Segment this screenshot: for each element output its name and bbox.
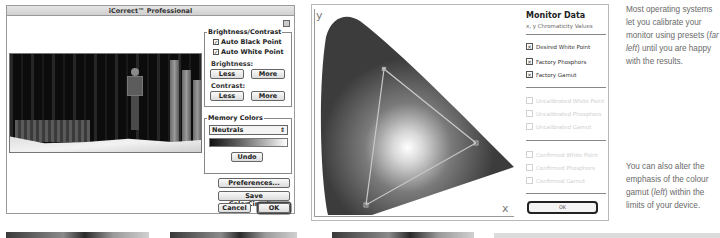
x-axis-label: x [502,202,509,215]
checkbox-unchecked-icon [526,97,533,104]
group-title: Brightness/Contrast [207,28,282,37]
divider [526,34,606,35]
checkbox-checked-icon: ✓ [213,49,219,55]
gray-panel [494,233,720,238]
checkbox-label: Auto White Point [221,48,284,56]
undo-button[interactable]: Undo [231,152,263,162]
fence [15,120,90,142]
memory-colors-select[interactable]: Neutrals ⇕ [209,125,288,135]
brightness-less-button[interactable]: Less [210,69,244,79]
chromaticity-diagram: y x [314,7,514,217]
checkbox-unchecked-icon [526,123,533,130]
chromaticity-plot [314,7,514,217]
auto-black-point-checkbox[interactable]: ✓ Auto Black Point [213,38,282,46]
thumbnail-image [6,232,149,238]
panel-title: Monitor Data [526,11,585,20]
save-colorcircuit-button[interactable]: Save ColorCircuit... [218,191,290,201]
caption-text: ) until you are happy with the results. [626,44,711,66]
brightness-label: Brightness: [211,60,253,68]
preferences-button[interactable]: Preferences... [218,178,290,188]
checkbox-unchecked-icon [526,110,533,117]
checkbox-label: Confirmed White Point [536,152,598,158]
checkbox-label: Auto Black Point [221,38,282,46]
monitor-data-panel: Monitor Data x, y Chromaticity Values × … [514,5,608,220]
caption-text: Most operating systems let you calibrate… [626,5,712,40]
divider [526,87,606,88]
checkbox-label: Uncalibrated White Point [536,98,604,104]
y-axis-label: y [316,9,323,22]
close-box-icon[interactable] [283,20,290,27]
monitor-ok-button[interactable]: OK [527,201,598,214]
checkbox-label: Uncalibrated Gamut [536,124,592,130]
brightness-more-button[interactable]: More [251,69,285,79]
factory-gamut-checkbox[interactable]: × Factory Gamut [526,71,576,78]
pillar [182,70,191,150]
checkbox-label: Confirmed Gamut [536,178,585,184]
checkbox-label: Factory Gamut [536,72,576,78]
caption-bottom: You can also alter the emphasis of the c… [626,160,720,212]
auto-white-point-checkbox[interactable]: ✓ Auto White Point [213,48,284,56]
page: iCorrect™ Professional Brightness/Contra… [0,0,720,238]
checkbox-label: Desired White Point [536,44,590,50]
divider [526,193,606,194]
factory-phosphors-checkbox[interactable]: × Factory Phosphors [526,58,586,65]
updown-arrows-icon: ⇕ [280,126,285,134]
thumbnail-image [170,232,297,238]
dialog-title: iCorrect™ Professional [7,6,294,16]
checkbox-unchecked-icon [526,164,533,171]
confirmed-phosphors-checkbox: Confirmed Phosphors [526,164,595,171]
caption-top: Most operating systems let you calibrate… [626,3,720,68]
uncalibrated-phosphors-checkbox: Uncalibrated Phosphors [526,110,601,117]
select-value: Neutrals [212,126,243,134]
preview-image [9,53,202,153]
checkbox-unchecked-icon [526,151,533,158]
desired-white-point-checkbox[interactable]: × Desired White Point [526,43,590,50]
checkbox-label: Factory Phosphors [536,59,586,65]
contrast-label: Contrast: [211,82,245,90]
checkbox-checked-icon: ✓ [213,39,219,45]
pillar [193,80,202,150]
contrast-less-button[interactable]: Less [210,91,244,101]
caption-emphasis: left [654,188,665,197]
stone-lantern [126,68,144,130]
checkbox-label: Confirmed Phosphors [536,165,595,171]
contrast-more-button[interactable]: More [251,91,285,101]
checkbox-checked-icon: × [526,43,533,50]
icorrect-dialog: iCorrect™ Professional Brightness/Contra… [6,5,295,214]
neutral-gradient-ramp [209,138,288,147]
memory-colors-group: Memory Colors Neutrals ⇕ Undo [204,118,292,174]
brightness-contrast-group: Brightness/Contrast ✓ Auto Black Point ✓… [204,32,292,107]
pillar [170,60,179,150]
checkbox-checked-icon: × [526,71,533,78]
checkbox-checked-icon: × [526,58,533,65]
divider [526,140,606,141]
uncalibrated-gamut-checkbox: Uncalibrated Gamut [526,123,592,130]
monitor-data-dialog: y x Monitor Data x, y Chromaticity Value… [311,4,609,221]
confirmed-gamut-checkbox: Confirmed Gamut [526,177,585,184]
ok-button[interactable]: OK [258,203,290,213]
uncalibrated-white-point-checkbox: Uncalibrated White Point [526,97,604,104]
confirmed-white-point-checkbox: Confirmed White Point [526,151,598,158]
panel-subtitle: x, y Chromaticity Values [526,23,593,29]
checkbox-unchecked-icon [526,177,533,184]
thumbnail-image [332,232,474,238]
cancel-button[interactable]: Cancel [218,203,251,213]
checkbox-label: Uncalibrated Phosphors [536,111,601,117]
group-title: Memory Colors [207,114,264,123]
